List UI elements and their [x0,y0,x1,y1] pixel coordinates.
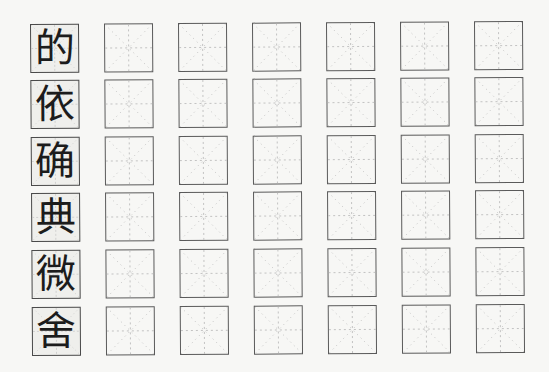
practice-cell[interactable] [327,135,376,184]
grid-guides-icon [476,191,523,238]
practice-cell[interactable] [328,305,377,354]
grid-guides-icon [328,136,375,183]
practice-cell[interactable] [252,22,301,71]
practice-row: 微 [31,247,531,299]
practice-cell[interactable] [253,191,302,240]
practice-sheet: 的 依 确 典 [0,0,549,372]
practice-cell[interactable] [104,79,153,128]
grid-guides-icon [255,306,302,353]
grid-guides-icon [106,250,153,297]
grid-guides-icon [105,24,152,71]
model-character: 依 [31,81,78,128]
model-character: 舍 [33,308,80,355]
grid-guides-icon [328,249,375,296]
grid-guides-icon [179,24,226,71]
practice-cell[interactable] [401,134,450,183]
practice-cell[interactable] [401,190,450,239]
practice-cell[interactable] [105,249,154,298]
grid-guides-icon [107,307,154,354]
practice-row: 依 [30,77,530,129]
practice-cell[interactable] [475,247,524,296]
grid-guides-icon [254,136,301,183]
practice-cell[interactable] [254,305,303,354]
grid-guides-icon [106,137,153,184]
grid-guides-icon [475,22,522,69]
grid-guides-icon [253,79,300,126]
practice-cell[interactable] [104,23,153,72]
model-character-cell: 的 [30,24,79,73]
model-character-cell: 舍 [32,307,81,356]
grid-guides-icon [477,305,524,352]
model-character: 微 [32,251,79,298]
practice-cell[interactable] [179,192,228,241]
practice-cell[interactable] [252,78,301,127]
grid-guides-icon [401,78,448,125]
grid-guides-icon [253,23,300,70]
model-character-cell: 典 [31,193,80,242]
practice-cell[interactable] [180,306,229,355]
model-character: 典 [32,194,79,241]
practice-cell[interactable] [474,21,523,70]
practice-cell[interactable] [400,77,449,126]
practice-cell[interactable] [105,136,154,185]
grid-guides-icon [106,193,153,240]
grid-guides-icon [254,192,301,239]
grid-guides-icon [402,248,449,295]
practice-cell[interactable] [476,304,525,353]
model-character-cell: 确 [31,137,80,186]
grid-guides-icon [181,307,228,354]
practice-cell[interactable] [179,136,228,185]
grid-guides-icon [180,137,227,184]
practice-cell[interactable] [474,77,523,126]
grid-guides-icon [403,305,450,352]
grid-guides-icon [254,249,301,296]
practice-cell[interactable] [327,248,376,297]
grid-guides-icon [329,306,376,353]
practice-cell[interactable] [253,248,302,297]
practice-cell[interactable] [105,192,154,241]
practice-cell[interactable] [401,247,450,296]
practice-cell[interactable] [179,249,228,298]
model-character: 的 [31,25,78,72]
grid-guides-icon [327,79,374,126]
practice-cell[interactable] [326,22,375,71]
practice-row: 确 [31,134,531,186]
practice-row: 的 [30,21,530,73]
model-character-cell: 依 [30,80,79,129]
practice-cell[interactable] [178,23,227,72]
grid-guides-icon [476,135,523,182]
practice-cell[interactable] [326,78,375,127]
grid-guides-icon [402,191,449,238]
grid-guides-icon [179,80,226,127]
grid-guides-icon [180,250,227,297]
practice-cell[interactable] [106,306,155,355]
grid-guides-icon [327,23,374,70]
grid-guides-icon [475,78,522,125]
practice-cell[interactable] [253,135,302,184]
grid-guides-icon [180,193,227,240]
practice-cell[interactable] [178,79,227,128]
grid-guides-icon [105,80,152,127]
grid-guides-icon [328,192,375,239]
practice-row: 舍 [32,304,532,356]
practice-cell[interactable] [475,190,524,239]
grid-guides-icon [401,22,448,69]
practice-cell[interactable] [400,21,449,70]
practice-cell[interactable] [475,134,524,183]
model-character-cell: 微 [31,250,80,299]
model-character: 确 [32,138,79,185]
grid-guides-icon [476,248,523,295]
grid-guides-icon [402,135,449,182]
practice-cell[interactable] [402,304,451,353]
practice-row: 典 [31,190,531,242]
practice-cell[interactable] [327,191,376,240]
